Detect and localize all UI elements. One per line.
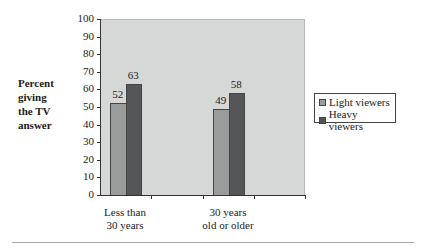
x-tick bbox=[151, 195, 152, 199]
y-tick-label: 90 bbox=[70, 31, 94, 42]
y-title-line: giving bbox=[18, 90, 54, 104]
y-title-line: answer bbox=[18, 118, 54, 132]
legend-swatch-light bbox=[319, 99, 326, 106]
bar bbox=[126, 84, 143, 196]
y-tick-label: 70 bbox=[70, 66, 94, 77]
bar bbox=[229, 93, 246, 196]
y-tick-label: 80 bbox=[70, 48, 94, 59]
x-tick bbox=[203, 195, 204, 199]
legend-item: Heavy viewers bbox=[319, 108, 391, 132]
y-tick-label: 10 bbox=[70, 171, 94, 182]
x-tick bbox=[305, 195, 306, 199]
chart-root: Percent giving the TV answer 01020304050… bbox=[0, 0, 421, 250]
y-tick-label: 100 bbox=[70, 13, 94, 24]
y-tick-label: 40 bbox=[70, 119, 94, 130]
y-axis-title: Percent giving the TV answer bbox=[18, 76, 54, 132]
y-axis bbox=[100, 19, 101, 196]
bar bbox=[213, 109, 230, 196]
y-tick-label: 60 bbox=[70, 83, 94, 94]
category-label: 30 years old or older bbox=[188, 206, 268, 232]
bar bbox=[110, 103, 127, 196]
legend-label: Light viewers bbox=[329, 96, 390, 108]
bar-value-label: 63 bbox=[121, 70, 145, 81]
legend-label: Heavy viewers bbox=[329, 108, 391, 132]
legend-swatch-heavy bbox=[319, 117, 326, 124]
y-tick-label: 50 bbox=[70, 101, 94, 112]
y-tick-label: 0 bbox=[70, 189, 94, 200]
bar-value-label: 58 bbox=[224, 79, 248, 90]
category-line: 30 years bbox=[85, 219, 165, 232]
y-title-line: Percent bbox=[18, 76, 54, 90]
legend-item: Light viewers bbox=[319, 96, 391, 108]
y-title-line: the TV bbox=[18, 104, 54, 118]
y-tick-label: 20 bbox=[70, 154, 94, 165]
legend: Light viewers Heavy viewers bbox=[314, 93, 396, 123]
category-line: Less than bbox=[85, 206, 165, 219]
x-tick bbox=[254, 195, 255, 199]
y-tick-label: 30 bbox=[70, 136, 94, 147]
bottom-rule bbox=[12, 242, 414, 243]
category-line: old or older bbox=[188, 219, 268, 232]
category-line: 30 years bbox=[188, 206, 268, 219]
category-label: Less than 30 years bbox=[85, 206, 165, 232]
